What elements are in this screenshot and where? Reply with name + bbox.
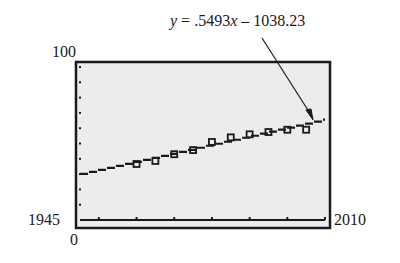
y-tick bbox=[79, 127, 81, 129]
y-tick bbox=[79, 158, 81, 160]
y-tick bbox=[79, 143, 81, 145]
y-tick bbox=[79, 188, 81, 190]
y-tick bbox=[79, 81, 81, 83]
plot-area bbox=[0, 0, 400, 263]
y-tick bbox=[79, 66, 81, 68]
y-tick bbox=[79, 204, 81, 206]
y-tick bbox=[79, 97, 81, 99]
plot-frame bbox=[76, 62, 330, 228]
y-tick bbox=[79, 112, 81, 114]
